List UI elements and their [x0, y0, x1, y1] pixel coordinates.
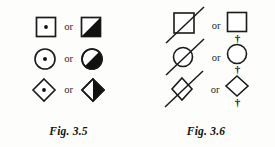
square-plain-icon [225, 10, 249, 34]
figure-caption-3-6: Fig. 3.6 [137, 125, 275, 137]
symbol-row: or [0, 76, 137, 104]
symbol-row: or † [137, 69, 275, 111]
circle-plain-icon [225, 43, 249, 65]
figure-caption-3-5: Fig. 3.5 [0, 125, 137, 137]
circle-with-center-dot-icon [31, 45, 59, 73]
dagger-icon: † [235, 98, 241, 107]
circle-half-filled-black-icon [78, 45, 106, 73]
symbol-row-group-3-6: or † or [137, 0, 275, 108]
square-half-filled-black-icon [78, 14, 104, 40]
diamond-half-filled-black-icon [78, 76, 108, 104]
diamond-plain-with-daggers: † [224, 74, 250, 107]
figure-panel-3-6: or † or [137, 0, 275, 147]
symbol-row: or [0, 14, 137, 40]
or-connector-label: or [59, 54, 78, 65]
diamond-with-diagonal-slash-icon [162, 69, 206, 111]
square-with-center-dot-icon [33, 14, 59, 40]
or-connector-label: or [59, 22, 78, 33]
or-connector-label: or [207, 53, 226, 64]
or-connector-label: or [206, 85, 225, 96]
symbol-row-group-3-5: or or [0, 0, 137, 108]
symbol-row: or [0, 45, 137, 73]
or-connector-label: or [207, 21, 226, 32]
figure-page: or or [0, 0, 275, 147]
diamond-with-center-dot-icon [29, 76, 59, 104]
diamond-plain-icon [224, 74, 250, 98]
or-connector-label: or [59, 85, 78, 96]
figure-panel-3-5: or or [0, 0, 137, 147]
